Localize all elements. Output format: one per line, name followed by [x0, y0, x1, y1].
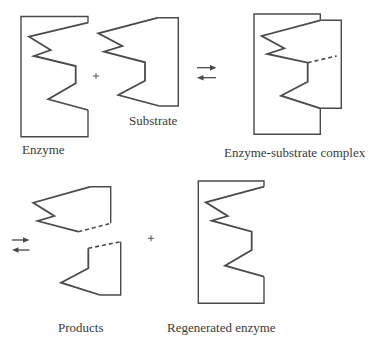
products-label: Products [58, 321, 104, 334]
equilibrium-arrows-top [197, 65, 217, 80]
substrate-shape [98, 18, 178, 106]
product-1-shape [33, 187, 110, 232]
plus-sign-bottom [148, 235, 154, 241]
complex-label: Enzyme-substrate complex [224, 146, 365, 159]
diagram-canvas [0, 0, 374, 338]
regenerated-enzyme-shape [198, 181, 264, 303]
regenerated-enzyme-label: Regenerated enzyme [167, 321, 276, 334]
enzyme-shape [21, 17, 88, 137]
plus-sign-top [93, 73, 99, 79]
enzyme-label: Enzyme [22, 143, 65, 156]
equilibrium-arrows-bottom [12, 237, 30, 252]
complex-shape [254, 14, 341, 134]
enzyme-reaction-diagram: Enzyme Substrate Enzyme-substrate comple… [0, 0, 374, 338]
product-2-shape [61, 242, 121, 295]
substrate-label: Substrate [129, 114, 177, 127]
